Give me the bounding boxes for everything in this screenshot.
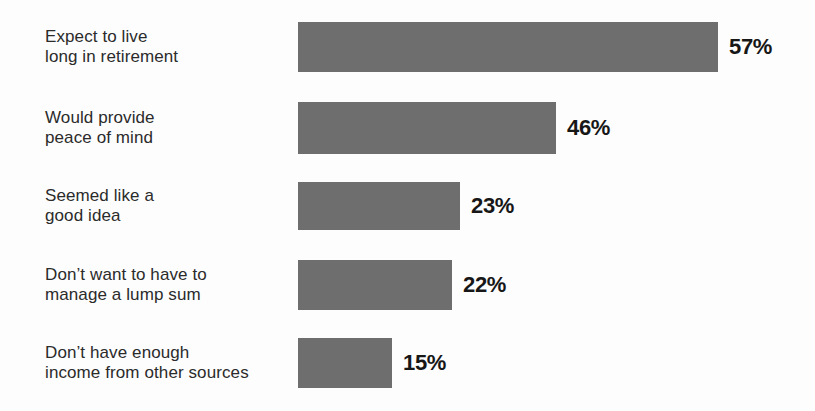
bar-chart-row: Seemed like a good idea 23% bbox=[0, 182, 815, 230]
bar-chart-row: Don’t want to have to manage a lump sum … bbox=[0, 260, 815, 310]
bar-track bbox=[298, 22, 718, 72]
bar-track bbox=[298, 182, 460, 230]
bar-track bbox=[298, 260, 452, 310]
bar-value-label: 22% bbox=[463, 272, 506, 298]
bar-fill bbox=[298, 260, 452, 310]
bar-track bbox=[298, 338, 392, 388]
bar-fill bbox=[298, 102, 556, 154]
bar-track bbox=[298, 102, 556, 154]
bar-value-label: 57% bbox=[729, 34, 772, 60]
bar-value-label: 46% bbox=[567, 115, 610, 141]
bar-category-label: Would provide peace of mind bbox=[45, 108, 290, 149]
bar-category-label: Expect to live long in retirement bbox=[45, 27, 290, 68]
bar-chart-row: Expect to live long in retirement 57% bbox=[0, 22, 815, 72]
bar-category-label: Seemed like a good idea bbox=[45, 186, 290, 227]
bar-value-label: 23% bbox=[471, 193, 514, 219]
bar-chart: Expect to live long in retirement 57% Wo… bbox=[0, 0, 815, 411]
bar-chart-row: Would provide peace of mind 46% bbox=[0, 102, 815, 154]
bar-value-label: 15% bbox=[403, 350, 446, 376]
bar-category-label: Don’t want to have to manage a lump sum bbox=[45, 265, 290, 306]
bar-fill bbox=[298, 338, 392, 388]
bar-fill bbox=[298, 22, 718, 72]
bar-category-label: Don’t have enough income from other sour… bbox=[45, 343, 290, 384]
bar-fill bbox=[298, 182, 460, 230]
bar-chart-row: Don’t have enough income from other sour… bbox=[0, 338, 815, 388]
